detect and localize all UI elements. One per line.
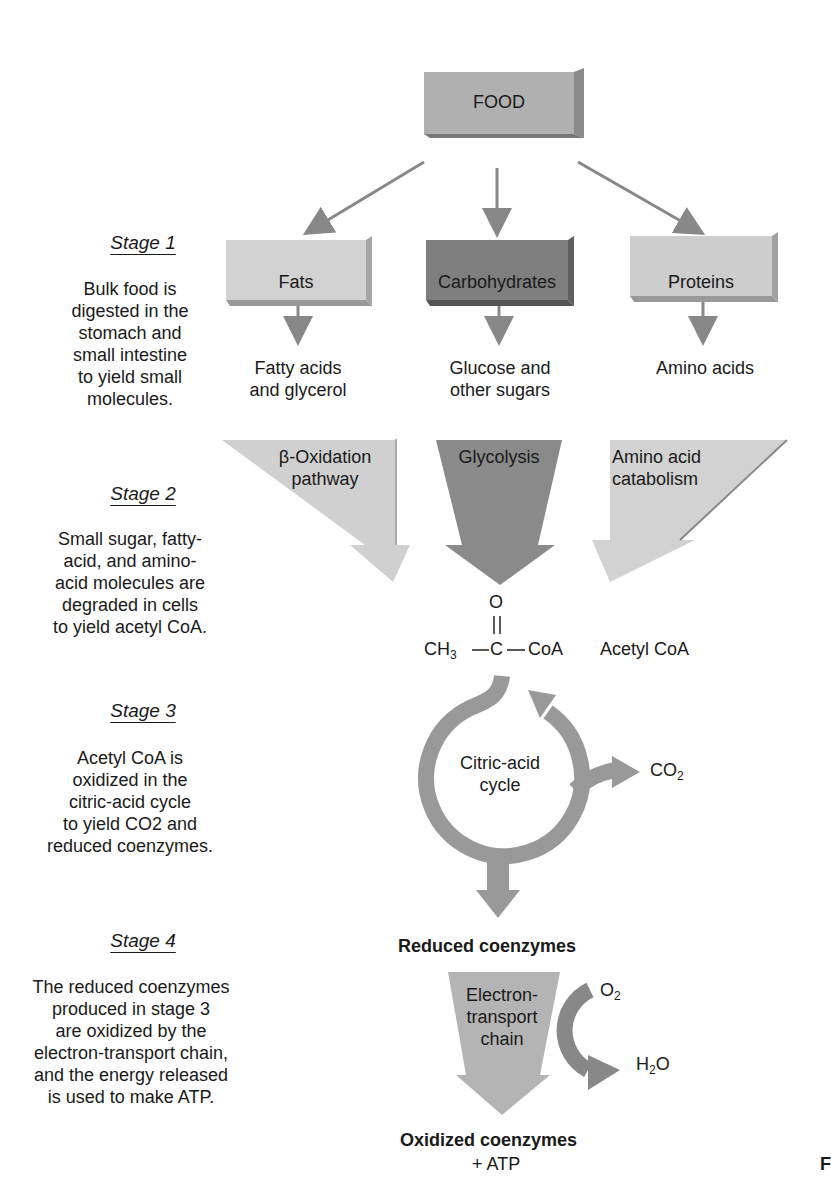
acetyl-carbon: C — [490, 639, 503, 660]
oxidized-coenzymes-label: Oxidized coenzymes — [400, 1130, 577, 1151]
citric-cycle-label: Citric-acidcycle — [440, 752, 560, 796]
beta-oxidation-label: β-Oxidationpathway — [255, 446, 395, 490]
stage-4-description: The reduced coenzymesproduced in stage 3… — [0, 976, 262, 1108]
reduced-coenzymes-label: Reduced coenzymes — [398, 936, 576, 957]
arrow-food-fats — [308, 162, 424, 232]
fats-label: Fats — [226, 272, 366, 293]
fats-box — [226, 236, 372, 306]
stage-1-description: Bulk food isdigested in the stomach ands… — [30, 278, 230, 410]
proteins-label: Proteins — [630, 272, 772, 293]
acetyl-ch3: CH3 — [424, 639, 457, 662]
glycolysis-label: Glycolysis — [436, 446, 562, 468]
fatty-acids-label: Fatty acidsand glycerol — [228, 357, 368, 401]
amino-acids-label: Amino acids — [630, 357, 780, 379]
carbohydrates-label: Carbohydrates — [426, 272, 568, 293]
stage-1-title: Stage 1 — [73, 232, 213, 254]
carbohydrates-box — [426, 236, 574, 306]
edge-fragment: F — [820, 1154, 831, 1175]
o2-h2o-arrow — [565, 990, 590, 1070]
acetyl-coa: CoA — [528, 639, 563, 660]
food-label: FOOD — [424, 92, 574, 113]
o2-label: O2 — [600, 980, 621, 1003]
amino-catabolism-label: Amino acidcatabolism — [612, 446, 722, 490]
co2-label: CO2 — [650, 760, 684, 783]
etc-label: Electron-transportchain — [456, 984, 548, 1050]
stage-2-description: Small sugar, fatty-acid, and amino- acid… — [20, 528, 240, 638]
h2o-label: H2O — [636, 1054, 670, 1077]
acetyl-oxygen: O — [489, 592, 503, 613]
stage-3-title: Stage 3 — [73, 700, 213, 722]
stage-4-title: Stage 4 — [73, 930, 213, 952]
acetyl-coa-name: Acetyl CoA — [600, 639, 689, 660]
arrow-food-proteins — [578, 162, 700, 232]
plus-atp-label: + ATP — [472, 1154, 520, 1175]
stage-3-description: Acetyl CoA isoxidized in the citric-acid… — [20, 747, 240, 857]
glucose-label: Glucose andother sugars — [430, 357, 570, 401]
stage-2-title: Stage 2 — [73, 483, 213, 505]
